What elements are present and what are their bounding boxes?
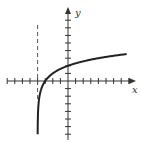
y-axis-arrow-icon <box>65 7 71 14</box>
graph: y x <box>0 0 141 142</box>
x-axis-label: x <box>132 84 138 95</box>
log-curve <box>38 54 127 134</box>
y-axis-label: y <box>74 7 81 18</box>
axes <box>7 7 136 140</box>
